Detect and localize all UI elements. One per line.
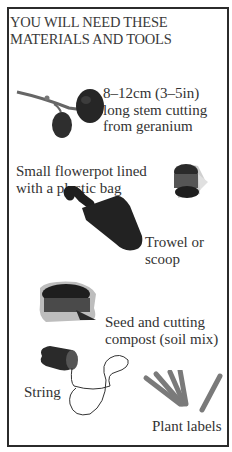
item-line: Plant labels: [152, 418, 222, 435]
item-cutting-text: 8–12cm (3–5in) long stem cutting from ge…: [103, 85, 207, 135]
compost-bag-icon: [36, 280, 100, 326]
panel-heading: YOU WILL NEED THESE MATERIALS AND TOOLS: [10, 14, 172, 48]
item-compost-text: Seed and cutting compost (soil mix): [105, 314, 218, 347]
item-line: Trowel or: [145, 234, 204, 251]
item-labels-text: Plant labels: [152, 418, 222, 435]
trowel-icon: [60, 186, 150, 258]
item-line: from geranium: [103, 118, 207, 135]
plant-labels-icon: [140, 370, 230, 418]
item-line: String: [24, 384, 61, 401]
item-line: Seed and cutting: [105, 314, 218, 331]
item-trowel-text: Trowel or scoop: [145, 234, 204, 267]
item-string-text: String: [24, 384, 61, 401]
heading-line-2: MATERIALS AND TOOLS: [10, 31, 172, 48]
heading-line-1: YOU WILL NEED THESE: [10, 14, 172, 31]
item-line: long stem cutting: [103, 102, 207, 119]
item-line: 8–12cm (3–5in): [103, 85, 207, 102]
item-line: Small flowerpot lined: [16, 163, 147, 180]
string-icon: [34, 344, 144, 420]
geranium-cutting-icon: [14, 82, 104, 140]
item-line: scoop: [145, 251, 204, 268]
flowerpot-icon: [168, 160, 212, 202]
